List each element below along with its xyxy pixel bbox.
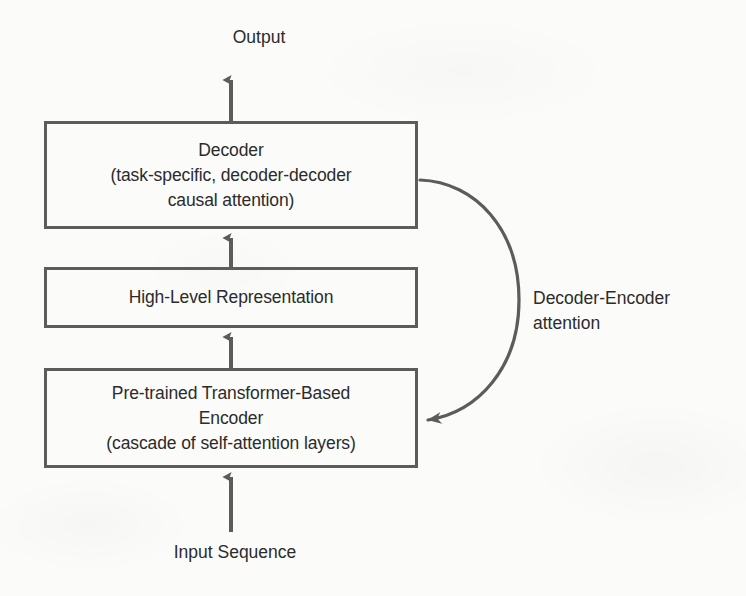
node-pretrained-encoder-label: Pre-trained Transformer-Based Encoder (c… bbox=[106, 381, 356, 456]
node-high-level-representation: High-Level Representation bbox=[44, 267, 418, 328]
arrow-decoder-encoder-attention bbox=[420, 180, 519, 420]
label-output: Output bbox=[199, 25, 319, 50]
node-decoder-label: Decoder (task-specific, decoder-decoder … bbox=[110, 138, 351, 213]
diagram-canvas: Decoder (task-specific, decoder-decoder … bbox=[0, 0, 746, 596]
label-decoder-encoder-attention: Decoder-Encoder attention bbox=[533, 286, 723, 336]
label-input-sequence: Input Sequence bbox=[155, 540, 315, 565]
node-decoder: Decoder (task-specific, decoder-decoder … bbox=[44, 121, 418, 229]
node-pretrained-encoder: Pre-trained Transformer-Based Encoder (c… bbox=[44, 368, 418, 468]
node-high-level-representation-label: High-Level Representation bbox=[129, 285, 334, 310]
